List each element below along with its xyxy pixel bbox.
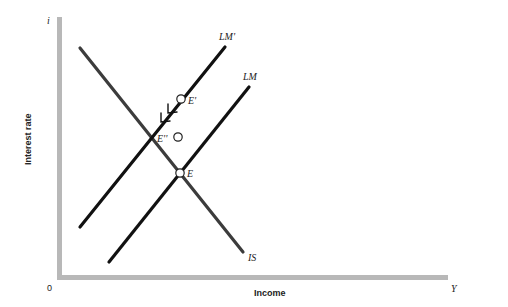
y-axis-symbol: i — [47, 15, 50, 26]
is-curve-label: IS — [247, 252, 256, 263]
point-e-label: E — [186, 168, 193, 179]
point-e-double-prime — [174, 133, 182, 141]
point-e-double-prime-label: E'' — [156, 133, 168, 144]
point-e-prime — [177, 95, 185, 103]
x-axis — [57, 275, 448, 280]
x-axis-label: Income — [254, 288, 286, 298]
origin-label: 0 — [47, 283, 52, 293]
x-axis-symbol: Y — [451, 283, 458, 294]
point-e — [176, 169, 184, 177]
movement-arrow-icon — [161, 104, 177, 122]
y-axis-label: Interest rate — [23, 113, 33, 165]
is-curve — [80, 48, 243, 252]
lm-curve-label: LM — [242, 71, 258, 82]
is-lm-diagram: i 0 Y Income Interest rate IS LM' LM E' … — [0, 0, 508, 307]
y-axis — [57, 17, 62, 280]
point-e-prime-label: E' — [187, 95, 197, 106]
lm-prime-curve-label: LM' — [218, 31, 236, 42]
